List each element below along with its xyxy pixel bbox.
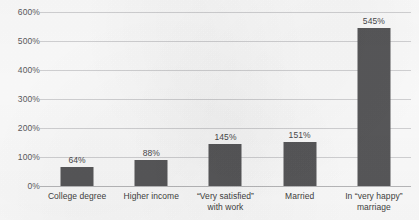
x-axis-category-label: Higher income	[114, 191, 188, 202]
y-axis-tick-label: 500%	[4, 36, 40, 46]
bar-value-label: 64%	[68, 155, 85, 165]
bar	[61, 167, 94, 186]
x-axis-category-label: College degree	[40, 191, 114, 202]
bar	[135, 160, 168, 186]
bar-value-label: 88%	[143, 148, 160, 158]
axis-baseline	[40, 186, 411, 187]
bar	[283, 142, 316, 186]
bar-group: 64%	[40, 12, 114, 186]
y-axis-tick-label: 400%	[4, 65, 40, 75]
bar	[357, 28, 390, 186]
y-axis-tick-label: 200%	[4, 123, 40, 133]
y-axis-tick-label: 0%	[4, 181, 40, 191]
bar-group: 145%	[188, 12, 262, 186]
bar-chart: 0% 100% 200% 300% 400% 500% 600% 64% 88%…	[0, 0, 419, 220]
x-axis-category-label: “Very satisfied” with work	[188, 191, 262, 213]
y-axis-tick-label: 300%	[4, 94, 40, 104]
bar-value-label: 151%	[289, 130, 311, 140]
y-axis-tick-label: 600%	[4, 7, 40, 17]
bar-group: 151%	[263, 12, 337, 186]
bar-value-label: 145%	[214, 132, 236, 142]
x-axis-category-label: In “very happy” marriage	[337, 191, 411, 213]
bar-group: 88%	[114, 12, 188, 186]
bar-value-label: 545%	[363, 16, 385, 26]
plot-area: 64% 88% 145% 151% 545%	[40, 12, 411, 186]
x-axis-category-label: Married	[263, 191, 337, 202]
bar-group: 545%	[337, 12, 411, 186]
bar	[209, 144, 242, 186]
y-axis-tick-label: 100%	[4, 152, 40, 162]
